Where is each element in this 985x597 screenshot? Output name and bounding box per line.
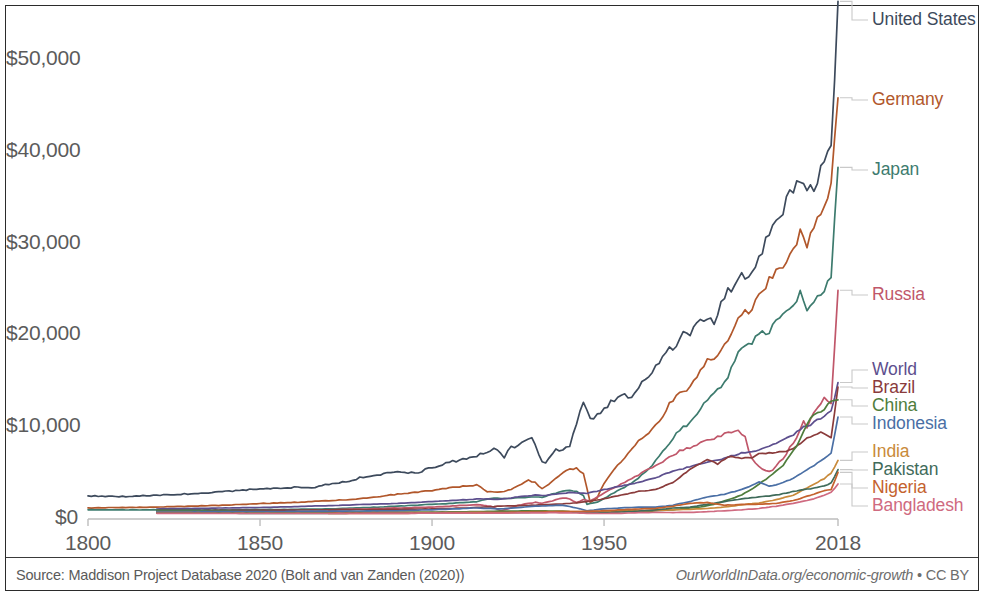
plot-area [0, 0, 985, 597]
series-line-china[interactable] [157, 400, 838, 513]
x-axis-tick-label: 2018 [783, 531, 893, 555]
leader-line-japan [840, 167, 868, 170]
series-line-world[interactable] [157, 383, 838, 510]
leader-line-united-states [840, 1, 868, 20]
y-axis-tick-label: $10,000 [6, 413, 78, 437]
series-line-russia[interactable] [329, 290, 838, 510]
series-layer [88, 1, 838, 513]
leader-line-china [840, 400, 868, 406]
x-axis-tick-label: 1950 [549, 531, 659, 555]
attribution-url[interactable]: OurWorldInData.org/economic-growth [676, 567, 913, 583]
chart-page: $0$10,000$20,000$30,000$40,000$50,000 18… [0, 0, 985, 597]
y-axis-tick-label: $40,000 [6, 138, 78, 162]
axis-layer [88, 519, 838, 526]
leader-line-brazil [840, 387, 868, 388]
series-label-germany[interactable]: Germany [872, 89, 943, 110]
leader-line-indonesia [840, 417, 868, 424]
series-line-germany[interactable] [88, 98, 838, 508]
x-axis-tick-label: 1900 [377, 531, 487, 555]
y-axis-tick-label: $0 [6, 505, 78, 529]
x-axis-tick-label: 1850 [205, 531, 315, 555]
series-label-russia[interactable]: Russia [872, 284, 925, 305]
series-label-japan[interactable]: Japan [872, 159, 919, 180]
series-label-indonesia[interactable]: Indonesia [872, 413, 947, 434]
x-axis-tick-label: 1800 [33, 531, 143, 555]
license-label: CC BY [926, 567, 969, 583]
leader-lines [840, 1, 868, 506]
attribution-note[interactable]: OurWorldInData.org/economic-growth • CC … [676, 567, 969, 583]
source-note: Source: Maddison Project Database 2020 (… [16, 567, 464, 583]
y-axis-tick-label: $50,000 [6, 46, 78, 70]
leader-line-russia [840, 290, 868, 295]
attribution-separator: • [913, 567, 926, 583]
y-axis-tick-label: $30,000 [6, 230, 78, 254]
leader-line-nigeria [840, 472, 868, 488]
series-line-united-states[interactable] [88, 1, 838, 497]
series-label-bangladesh[interactable]: Bangladesh [872, 495, 963, 516]
leader-line-bangladesh [840, 484, 868, 506]
leader-line-world [840, 370, 868, 382]
footer-divider [6, 557, 978, 558]
series-label-united-states[interactable]: United States [872, 9, 976, 30]
line-chart-svg [0, 0, 985, 597]
y-axis-tick-label: $20,000 [6, 321, 78, 345]
leader-line-india [840, 452, 868, 460]
leader-line-germany [840, 98, 868, 100]
